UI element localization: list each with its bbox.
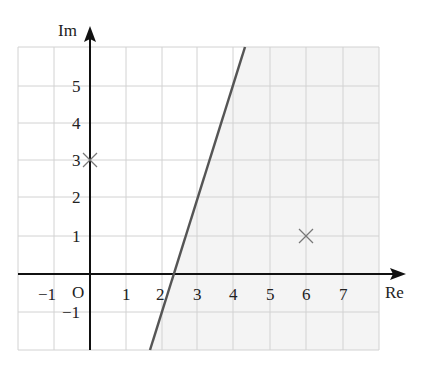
x-tick: 1	[122, 286, 131, 303]
y-tick: −1	[62, 304, 80, 321]
x-tick: −1	[38, 286, 56, 303]
x-tick: 3	[193, 286, 202, 303]
shaded-region	[150, 47, 379, 350]
x-tick: 7	[339, 286, 348, 303]
y-tick: 1	[72, 228, 81, 245]
y-tick: 3	[72, 152, 81, 169]
x-tick: 5	[266, 286, 275, 303]
x-tick: 4	[229, 286, 238, 303]
y-tick: 5	[72, 78, 81, 95]
origin-label: O	[72, 284, 84, 301]
x-tick: 2	[156, 286, 165, 303]
x-tick: 6	[302, 286, 311, 303]
y-tick: 4	[72, 115, 81, 132]
y-tick: 2	[72, 189, 81, 206]
x-axis-label: Re	[385, 284, 404, 301]
y-axis-label: Im	[58, 22, 77, 39]
